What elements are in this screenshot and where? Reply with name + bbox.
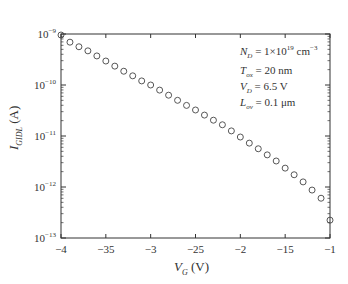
data-point-marker	[103, 58, 109, 64]
data-point-marker	[201, 112, 207, 118]
data-point-marker	[166, 92, 172, 98]
data-point-marker	[300, 179, 306, 185]
data-point-marker	[112, 63, 118, 69]
gidl-current-chart: −4−35−3−25−2−15−110−910−1010−1110−1210−1…	[0, 0, 348, 284]
annotation-drain-voltage: VD = 6.5 V	[240, 80, 288, 95]
tick-labels: −4−35−3−25−2−15−110−910−1010−1110−1210−1…	[34, 27, 336, 255]
annotation-overlap-length: Lov = 0.1 μm	[240, 96, 295, 111]
data-point-marker	[291, 172, 297, 178]
x-axis-label: VG (V)	[174, 259, 209, 277]
data-point-marker	[193, 107, 199, 113]
data-point-marker	[255, 146, 261, 152]
y-tick-label: 10−11	[34, 129, 56, 142]
data-point-marker	[175, 97, 181, 103]
data-point-marker	[139, 78, 145, 84]
data-point-marker	[94, 53, 100, 59]
data-point-marker	[264, 152, 270, 158]
x-tick-label: −25	[187, 243, 205, 255]
data-point-marker	[273, 158, 279, 164]
x-tick-label: −1	[324, 243, 336, 255]
data-point-marker	[309, 187, 315, 193]
data-point-marker	[184, 102, 190, 108]
y-tick-label: 10−10	[34, 78, 56, 91]
data-point-marker	[67, 39, 73, 45]
data-point-marker	[148, 82, 154, 88]
x-tick-label: −4	[55, 243, 67, 255]
data-point-marker	[228, 128, 234, 134]
y-tick-label: 10−9	[38, 27, 57, 40]
data-point-marker	[318, 195, 324, 201]
data-point-marker	[282, 165, 288, 171]
y-axis-label: IGIDL (A)	[6, 106, 24, 150]
x-tick-label: −35	[97, 243, 115, 255]
x-tick-label: −15	[277, 243, 295, 255]
data-point-marker	[219, 122, 225, 128]
data-point-marker	[237, 134, 243, 140]
data-point-marker	[130, 73, 136, 79]
data-point-marker	[76, 44, 82, 50]
x-tick-label: −2	[234, 243, 246, 255]
x-tick-label: −3	[145, 243, 157, 255]
data-point-marker	[85, 48, 91, 54]
annotation-oxide-thickness: Tox = 20 nm	[240, 64, 292, 79]
annotation-doping: ND = 1×1019 cm−3	[240, 44, 317, 60]
data-point-marker	[210, 117, 216, 123]
data-point-marker	[157, 87, 163, 93]
data-point-marker	[246, 140, 252, 146]
data-points	[58, 32, 333, 223]
y-tick-label: 10−13	[34, 231, 56, 244]
data-point-marker	[121, 68, 127, 74]
y-tick-label: 10−12	[34, 180, 56, 193]
